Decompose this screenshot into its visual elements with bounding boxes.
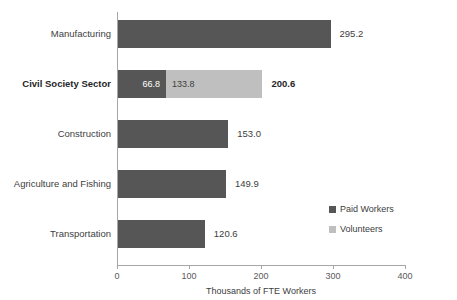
x-axis-tick (189, 265, 190, 269)
category-label: Civil Society Sector (22, 70, 111, 98)
legend-swatch-volunteers-icon (329, 226, 336, 233)
bar-value-label-volunteers: 133.8 (172, 70, 195, 98)
category-label: Agriculture and Fishing (14, 170, 111, 198)
x-axis-tick-label: 100 (181, 271, 196, 281)
bar-chart: Manufacturing295.2Civil Society Sector66… (0, 0, 457, 300)
chart-row: Construction153.0 (0, 120, 457, 148)
category-label: Construction (58, 120, 111, 148)
chart-legend: Paid Workers Volunteers (329, 201, 394, 241)
bar-total-label: 120.6 (214, 220, 238, 248)
bar-group (118, 20, 331, 48)
chart-row: Agriculture and Fishing149.9 (0, 170, 457, 198)
bar-segment-paid-workers (118, 20, 331, 48)
y-axis-line (117, 12, 118, 265)
x-axis-tick (405, 265, 406, 269)
bar-group (118, 170, 226, 198)
bar-segment-paid-workers (118, 120, 228, 148)
category-label: Manufacturing (51, 20, 111, 48)
bar-total-label: 149.9 (235, 170, 259, 198)
chart-row: Manufacturing295.2 (0, 20, 457, 48)
bar-group (118, 120, 228, 148)
bar-segment-paid-workers (118, 220, 205, 248)
category-label: Transportation (50, 220, 111, 248)
x-axis-tick (333, 265, 334, 269)
legend-swatch-paid-workers-icon (329, 206, 336, 213)
x-axis-tick (261, 265, 262, 269)
bar-total-label: 153.0 (237, 120, 261, 148)
legend-label-paid-workers: Paid Workers (340, 204, 394, 214)
bar-total-label: 200.6 (271, 70, 295, 98)
legend-label-volunteers: Volunteers (340, 224, 383, 234)
bar-segment-paid-workers (118, 170, 226, 198)
x-axis-title: Thousands of FTE Workers (117, 286, 405, 296)
chart-row: Civil Society Sector66.8133.8200.6 (0, 70, 457, 98)
x-axis-tick-label: 300 (325, 271, 340, 281)
x-axis-tick-label: 200 (253, 271, 268, 281)
x-axis-tick (117, 265, 118, 269)
bar-value-label-paid-workers: 66.8 (143, 70, 161, 98)
legend-item-volunteers: Volunteers (329, 221, 394, 237)
bar-group (118, 220, 205, 248)
x-axis-tick-label: 0 (114, 271, 119, 281)
legend-item-paid-workers: Paid Workers (329, 201, 394, 217)
x-axis-tick-label: 400 (397, 271, 412, 281)
bar-total-label: 295.2 (340, 20, 364, 48)
